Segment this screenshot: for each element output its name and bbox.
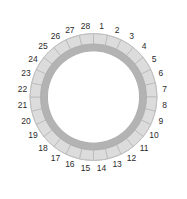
- segment-label-1: 1: [99, 21, 104, 30]
- segment-label-18: 18: [38, 143, 47, 152]
- center-disc-fill: [48, 52, 139, 143]
- ring-segment: [93, 149, 107, 161]
- ring-segment: [79, 34, 93, 46]
- segment-label-9: 9: [159, 116, 164, 125]
- ring-segment: [30, 97, 42, 111]
- segment-label-4: 4: [142, 42, 147, 51]
- segment-label-10: 10: [149, 131, 158, 140]
- segment-label-5: 5: [152, 54, 157, 63]
- segment-label-25: 25: [38, 42, 47, 51]
- segment-label-28: 28: [81, 21, 90, 30]
- segment-label-2: 2: [115, 25, 120, 34]
- segment-label-21: 21: [18, 101, 27, 110]
- segment-label-3: 3: [129, 32, 134, 41]
- center-disc: [48, 52, 139, 143]
- segment-label-6: 6: [159, 69, 164, 78]
- segment-label-12: 12: [127, 153, 136, 162]
- segment-label-23: 23: [21, 69, 30, 78]
- segment-label-7: 7: [162, 84, 167, 93]
- ring-segment: [145, 83, 157, 97]
- ring-graphic: [0, 0, 187, 199]
- segmented-ring-diagram: 1234567891011121314151617181920212223242…: [0, 0, 187, 199]
- segment-label-16: 16: [65, 160, 74, 169]
- segment-label-11: 11: [140, 143, 149, 152]
- segment-label-22: 22: [18, 84, 27, 93]
- segment-label-8: 8: [162, 101, 167, 110]
- segment-label-13: 13: [112, 160, 121, 169]
- segment-label-15: 15: [81, 164, 90, 173]
- segment-label-27: 27: [65, 25, 74, 34]
- segment-label-19: 19: [28, 131, 37, 140]
- segment-label-26: 26: [51, 32, 60, 41]
- segment-label-14: 14: [97, 164, 106, 173]
- segment-label-24: 24: [28, 54, 37, 63]
- segment-label-17: 17: [51, 153, 60, 162]
- segment-label-20: 20: [21, 116, 30, 125]
